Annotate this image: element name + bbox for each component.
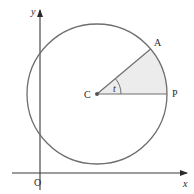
origin-label: O: [34, 177, 41, 188]
center-label: C: [84, 89, 91, 100]
angle-label: t: [113, 83, 116, 94]
center-point: [95, 92, 99, 96]
circle-diagram: y x O C A P t: [0, 0, 194, 194]
shaded-sector: [97, 49, 167, 94]
point-p-label: P: [172, 88, 178, 99]
x-axis-label: x: [182, 178, 188, 189]
point-a-label: A: [154, 37, 162, 48]
y-axis-label: y: [30, 6, 36, 17]
